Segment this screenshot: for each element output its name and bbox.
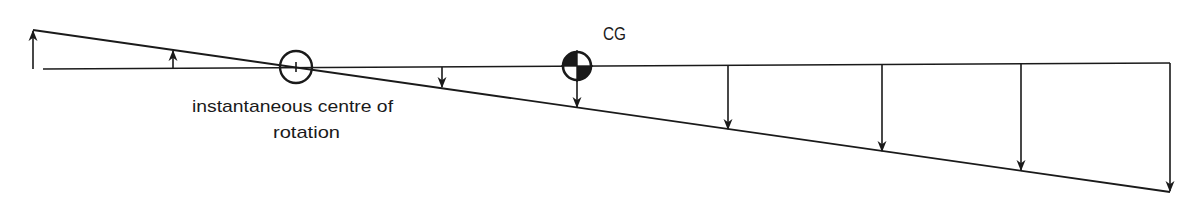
centre-of-gravity-icon xyxy=(561,50,593,82)
rotation-velocity-diagram: CG instantaneous centre of rotation xyxy=(0,0,1192,204)
reference-line xyxy=(43,63,1170,69)
icr-label-line2: rotation xyxy=(273,123,340,142)
cg-label: CG xyxy=(603,24,626,44)
icr-label-line1: instantaneous centre of xyxy=(192,97,393,116)
